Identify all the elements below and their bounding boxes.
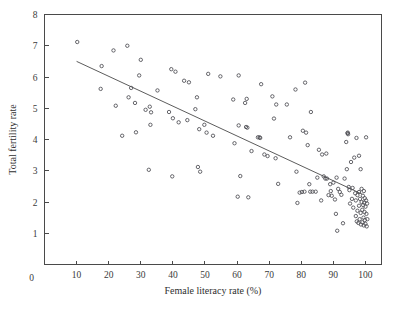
data-point: [239, 174, 242, 177]
y-axis-title: Total fertility rate: [7, 104, 18, 175]
data-point: [206, 72, 209, 75]
y-tick-label-5: 5: [33, 104, 38, 114]
data-point: [156, 89, 159, 92]
data-point: [358, 217, 361, 220]
data-point: [237, 74, 240, 77]
data-point: [345, 140, 348, 143]
data-point: [320, 153, 323, 156]
data-point: [350, 197, 353, 200]
x-tick-label-40: 40: [168, 270, 178, 280]
data-point: [99, 87, 102, 90]
data-point: [308, 182, 311, 185]
data-point: [301, 129, 304, 132]
data-point: [336, 229, 339, 232]
data-point: [319, 199, 322, 202]
y-tick-label-3: 3: [33, 166, 38, 176]
data-point: [174, 70, 177, 73]
data-point: [245, 97, 248, 100]
data-point: [341, 222, 344, 225]
data-point: [317, 148, 320, 151]
data-point: [171, 175, 174, 178]
y-tick-label-1: 1: [33, 229, 38, 239]
data-point: [126, 44, 129, 47]
x-tick-label-70: 70: [264, 270, 274, 280]
data-point: [236, 195, 239, 198]
data-point: [232, 98, 235, 101]
data-point: [120, 134, 123, 137]
data-point: [194, 107, 197, 110]
data-point: [134, 131, 137, 134]
data-point: [351, 186, 354, 189]
data-point: [276, 182, 279, 185]
y-tick-label-8: 8: [33, 10, 38, 20]
data-point: [198, 127, 201, 130]
data-point: [144, 108, 147, 111]
y-tick-label-6: 6: [33, 73, 38, 83]
x-tick-label-90: 90: [329, 270, 339, 280]
regression-line: [77, 61, 363, 194]
x-tick-label-30: 30: [136, 270, 146, 280]
y-tick-label-4: 4: [33, 135, 38, 145]
data-point: [211, 134, 214, 137]
data-point: [357, 154, 360, 157]
data-point: [304, 131, 307, 134]
data-point: [259, 82, 262, 85]
data-point: [275, 103, 278, 106]
data-point: [332, 181, 335, 184]
data-point: [205, 131, 208, 134]
data-point: [243, 101, 246, 104]
plot-canvas: 102030405060708090100123456780Female lit…: [0, 0, 397, 309]
y-tick-label-7: 7: [33, 41, 38, 51]
data-point: [114, 104, 117, 107]
data-point: [355, 136, 358, 139]
data-point: [359, 167, 362, 170]
data-point: [233, 142, 236, 145]
data-point: [148, 105, 151, 108]
x-tick-label-60: 60: [232, 270, 242, 280]
data-point: [76, 40, 79, 43]
x-axis-title: Female literacy rate (%): [165, 285, 262, 297]
data-point: [198, 170, 201, 173]
data-point: [288, 136, 291, 139]
x-tick-label-100: 100: [358, 270, 373, 280]
data-point: [285, 103, 288, 106]
data-point: [133, 101, 136, 104]
plot-frame: [45, 15, 382, 265]
data-point: [219, 75, 222, 78]
data-point: [309, 110, 312, 113]
data-points: [76, 40, 370, 232]
data-point: [345, 167, 348, 170]
data-point: [306, 143, 309, 146]
data-point: [170, 67, 173, 70]
data-point: [149, 111, 152, 114]
data-point: [294, 88, 297, 91]
data-point: [147, 168, 150, 171]
data-point: [137, 74, 140, 77]
fertility-literacy-scatter-figure: 102030405060708090100123456780Female lit…: [0, 0, 397, 309]
data-point: [364, 136, 367, 139]
data-point: [353, 156, 356, 159]
data-point: [325, 152, 328, 155]
data-point: [139, 58, 142, 61]
data-point: [296, 201, 299, 204]
data-point: [100, 64, 103, 67]
data-point: [237, 124, 240, 127]
data-point: [340, 193, 343, 196]
data-point: [274, 157, 277, 160]
data-point: [362, 189, 365, 192]
data-point: [247, 196, 250, 199]
data-point: [271, 95, 274, 98]
data-point: [343, 177, 346, 180]
origin-label: 0: [29, 273, 34, 283]
data-point: [250, 149, 253, 152]
y-tick-label-2: 2: [33, 198, 38, 208]
data-point: [195, 96, 198, 99]
data-point: [112, 49, 115, 52]
data-point: [316, 176, 319, 179]
data-point: [348, 202, 351, 205]
x-tick-label-10: 10: [72, 270, 82, 280]
x-tick-label-80: 80: [297, 270, 307, 280]
data-point: [354, 199, 357, 202]
data-point: [357, 204, 360, 207]
x-tick-label-50: 50: [200, 270, 210, 280]
